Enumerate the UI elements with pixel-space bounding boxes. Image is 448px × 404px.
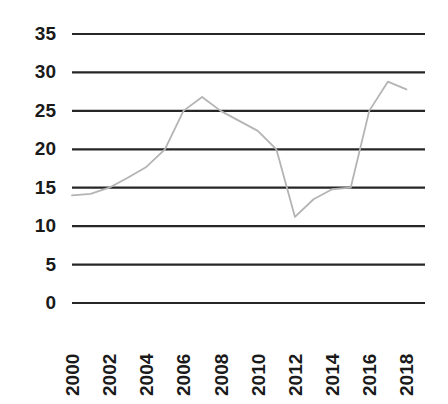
line-chart: 05101520253035 2000200220042006200820102… xyxy=(0,0,448,404)
y-axis-tick-label: 15 xyxy=(10,178,56,197)
y-axis-tick-label: 5 xyxy=(10,255,56,274)
gridlines xyxy=(72,34,425,303)
y-axis-tick-label: 25 xyxy=(10,101,56,120)
x-axis-tick-label: 2014 xyxy=(323,354,342,396)
x-axis-tick-label: 2010 xyxy=(249,354,268,396)
y-axis-tick-label: 0 xyxy=(10,293,56,312)
y-axis-tick-label: 35 xyxy=(10,24,56,43)
x-axis-tick-label: 2012 xyxy=(286,354,305,396)
x-axis-tick-label: 2006 xyxy=(174,354,193,396)
chart-plot-area xyxy=(0,0,448,404)
x-axis-tick-label: 2016 xyxy=(360,354,379,396)
x-axis-tick-label: 2002 xyxy=(100,354,119,396)
x-axis-tick-label: 2004 xyxy=(137,354,156,396)
x-axis-tick-label: 2000 xyxy=(63,354,82,396)
x-axis-tick-label: 2008 xyxy=(212,354,231,396)
y-axis-tick-label: 10 xyxy=(10,216,56,235)
x-axis-tick-label: 2018 xyxy=(397,354,416,396)
y-axis-tick-label: 20 xyxy=(10,139,56,158)
y-axis-tick-label: 30 xyxy=(10,62,56,81)
